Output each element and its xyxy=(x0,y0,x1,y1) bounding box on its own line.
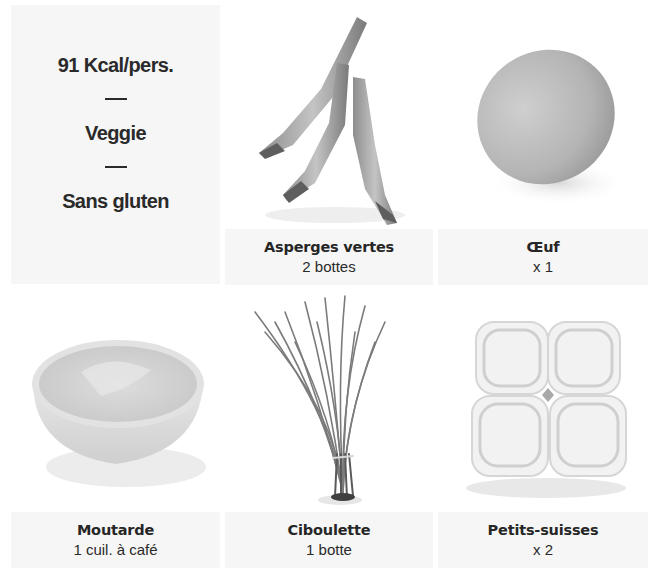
ingredient-quantity: x 2 xyxy=(533,540,553,560)
ingredient-name: Asperges vertes xyxy=(264,237,394,257)
diet-label: Veggie xyxy=(85,121,146,145)
ingredient-caption-asparagus: Asperges vertes 2 bottes xyxy=(225,229,433,285)
allergen-label: Sans gluten xyxy=(62,189,169,213)
chives-photo xyxy=(225,292,433,508)
ingredient-caption-egg: Œuf x 1 xyxy=(438,229,648,285)
recipe-info-panel: 91 Kcal/pers. Veggie Sans gluten xyxy=(11,5,220,284)
egg-photo xyxy=(438,5,648,227)
calories-label: 91 Kcal/pers. xyxy=(58,53,174,77)
ingredient-quantity: 1 botte xyxy=(306,540,352,560)
mustard-bowl-photo xyxy=(11,292,220,508)
divider xyxy=(105,98,127,100)
ingredient-quantity: 2 bottes xyxy=(302,257,355,277)
ingredient-caption-chives: Ciboulette 1 botte xyxy=(225,512,433,568)
ingredient-caption-petits-suisses: Petits-suisses x 2 xyxy=(438,512,648,568)
ingredient-name: Œuf xyxy=(527,237,560,257)
petits-suisses-photo xyxy=(438,292,648,508)
ingredient-quantity: x 1 xyxy=(533,257,553,277)
ingredient-name: Moutarde xyxy=(77,520,154,540)
ingredient-name: Petits-suisses xyxy=(488,520,599,540)
ingredient-quantity: 1 cuil. à café xyxy=(73,540,157,560)
ingredient-name: Ciboulette xyxy=(288,520,371,540)
asparagus-photo xyxy=(225,5,433,227)
ingredient-caption-mustard: Moutarde 1 cuil. à café xyxy=(11,512,220,568)
divider xyxy=(105,166,127,168)
